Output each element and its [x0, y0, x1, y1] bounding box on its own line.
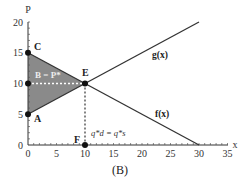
x-tick-10: 10: [80, 148, 90, 159]
x-tick-15: 15: [109, 148, 119, 159]
y-tick-15: 15: [13, 47, 23, 58]
y-tick-20: 20: [13, 17, 23, 28]
label-c: C: [34, 41, 41, 52]
label-a: A: [34, 113, 42, 124]
x-axis-label: x: [233, 139, 238, 150]
x-tick-20: 20: [137, 148, 147, 159]
y-tick-0: 0: [18, 140, 23, 151]
g-label: g(x): [152, 50, 168, 61]
x-tick-35: 35: [223, 148, 233, 159]
point-e: [82, 81, 88, 87]
label-f: F: [74, 134, 80, 145]
label-e: E: [82, 67, 89, 78]
y-tick-10: 10: [13, 78, 23, 89]
chart-caption: (B): [112, 163, 128, 177]
y-tick-5: 5: [18, 109, 23, 120]
x-tick-5: 5: [54, 148, 59, 159]
point-c: [25, 50, 31, 56]
y-axis-label: P: [25, 4, 31, 15]
x-tick-30: 30: [194, 148, 204, 159]
point-b: [25, 81, 31, 87]
f-label: f(x): [155, 109, 169, 120]
x-tick-25: 25: [166, 148, 176, 159]
chart: 0 5 10 15 20 25 30 35 0 5 10 15 20 P x C…: [0, 0, 251, 183]
b-equals-p-label: B = P*: [35, 70, 61, 80]
q-equilibrium-label: q*d = q*s: [91, 128, 126, 138]
point-a: [25, 111, 31, 117]
x-tick-0: 0: [26, 148, 31, 159]
